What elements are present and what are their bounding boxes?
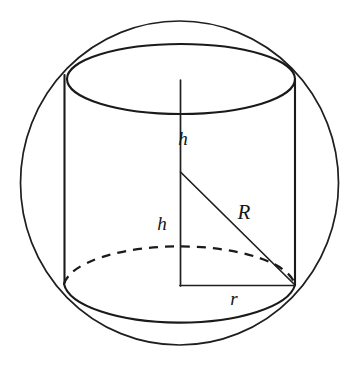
- cylinder-bottom-rim-back-hidden: [64, 246, 295, 285]
- sphere-cylinder-diagram: Sphere circumscribing a cylinder A cylin…: [0, 0, 356, 366]
- label-r-base-radius: r: [230, 288, 238, 309]
- cylinder-bottom-rim-front: [64, 284, 295, 323]
- label-h-lower: h: [157, 213, 167, 234]
- geometry-figure: Sphere circumscribing a cylinder A cylin…: [0, 0, 356, 366]
- triangle-hypotenuse-R: [181, 172, 296, 285]
- cylinder-top-rim-back: [67, 44, 295, 79]
- label-h-upper: h: [178, 128, 188, 149]
- label-R-sphere-radius: R: [237, 200, 251, 224]
